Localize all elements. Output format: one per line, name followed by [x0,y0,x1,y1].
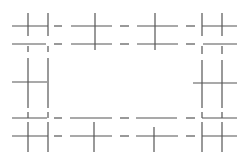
line-diagram [0,0,245,159]
diagram-canvas [0,0,245,159]
